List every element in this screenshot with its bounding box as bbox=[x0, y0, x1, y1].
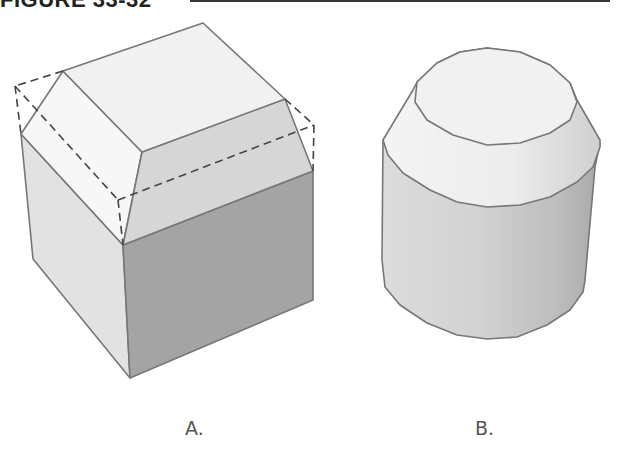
cube-figure bbox=[15, 23, 314, 378]
cylinder-figure bbox=[382, 48, 600, 339]
panel-label-a: A. bbox=[185, 417, 204, 439]
figure-canvas bbox=[0, 0, 617, 450]
panel-label-b: B. bbox=[475, 417, 494, 439]
